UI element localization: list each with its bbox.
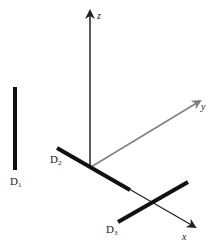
detector-d3-label: D3: [106, 223, 118, 237]
x-axis-label: x: [181, 231, 187, 242]
y-axis-label: y: [200, 101, 206, 112]
z-axis: z: [90, 10, 101, 168]
detector-d1: D1: [10, 87, 22, 189]
detector-d2-label: D2: [50, 153, 62, 167]
coordinate-diagram: z y x D1 D2 D3: [0, 0, 213, 246]
detector-d2-bar: [57, 148, 130, 190]
detector-d3: D3: [106, 182, 188, 237]
y-axis: y: [91, 101, 206, 167]
z-axis-label: z: [96, 10, 101, 21]
y-axis-arrow-icon: [91, 101, 200, 167]
detector-d1-label: D1: [10, 175, 22, 189]
